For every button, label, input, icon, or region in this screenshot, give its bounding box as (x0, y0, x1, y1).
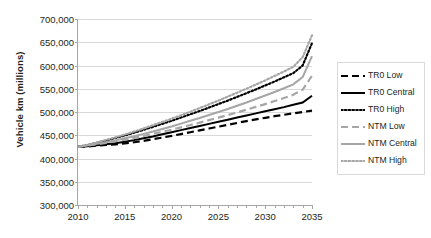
legend-item-label: TR0 Low (368, 71, 402, 80)
x-tick-mark-major (172, 205, 173, 209)
legend-item-ntm-low[interactable]: NTM Low (341, 118, 421, 135)
x-tick-mark-minor (303, 205, 304, 208)
x-tick-mark-minor (97, 205, 98, 208)
x-tick-mark-minor (200, 205, 201, 208)
x-tick-mark-minor (190, 205, 191, 208)
legend-item-label: NTM High (368, 156, 407, 165)
legend-line-swatch-icon (341, 88, 365, 98)
x-tick-mark-minor (246, 205, 247, 208)
y-tick-label: 700,000 (40, 14, 74, 25)
x-tick-mark-minor (134, 205, 135, 208)
y-axis-title: Vehicle km (millions) (14, 25, 25, 175)
series-line-ntm-central (78, 56, 312, 147)
legend-item-label: NTM Low (368, 122, 405, 131)
legend-item-ntm-high[interactable]: NTM High (341, 152, 421, 169)
legend-item-tr0-central[interactable]: TR0 Central (341, 84, 421, 101)
x-tick-mark-major (78, 205, 79, 209)
y-tick-label: 650,000 (40, 37, 74, 48)
x-tick-label: 2030 (255, 211, 276, 222)
legend-line-swatch-icon (341, 139, 365, 149)
legend-line-swatch-icon (341, 122, 365, 132)
x-tick-label: 2015 (114, 211, 135, 222)
x-tick-mark-minor (106, 205, 107, 208)
y-tick-label: 500,000 (40, 107, 74, 118)
legend-item-label: NTM Central (368, 139, 417, 148)
x-tick-mark-major (265, 205, 266, 209)
legend-item-label: TR0 Central (368, 88, 414, 97)
series-line-tr0-high (78, 43, 312, 147)
y-tick-label: 600,000 (40, 60, 74, 71)
chart-figure: Vehicle km (millions) 700,000650,000600,… (0, 0, 431, 238)
x-tick-mark-major (125, 205, 126, 209)
x-tick-mark-major (312, 205, 313, 209)
legend-item-ntm-central[interactable]: NTM Central (341, 135, 421, 152)
x-tick-mark-minor (162, 205, 163, 208)
y-tick-label: 300,000 (40, 200, 74, 211)
legend-line-swatch-icon (341, 105, 365, 115)
plot-area: 700,000650,000600,000550,000500,000450,0… (77, 19, 312, 206)
legend-item-tr0-low[interactable]: TR0 Low (341, 67, 421, 84)
x-tick-mark-minor (228, 205, 229, 208)
x-tick-mark-minor (284, 205, 285, 208)
chart-legend: TR0 LowTR0 CentralTR0 HighNTM LowNTM Cen… (337, 62, 425, 175)
x-tick-mark-minor (256, 205, 257, 208)
legend-item-label: TR0 High (368, 105, 404, 114)
y-tick-label: 350,000 (40, 176, 74, 187)
legend-item-tr0-high[interactable]: TR0 High (341, 101, 421, 118)
legend-line-swatch-icon (341, 156, 365, 166)
x-tick-label: 2010 (67, 211, 88, 222)
x-tick-mark-minor (237, 205, 238, 208)
series-lines (78, 19, 312, 205)
y-tick-label: 450,000 (40, 130, 74, 141)
x-tick-mark-major (218, 205, 219, 209)
x-tick-label: 2020 (161, 211, 182, 222)
x-tick-mark-minor (153, 205, 154, 208)
x-tick-mark-minor (275, 205, 276, 208)
x-tick-mark-minor (144, 205, 145, 208)
y-tick-label: 550,000 (40, 83, 74, 94)
x-tick-label: 2025 (208, 211, 229, 222)
legend-line-swatch-icon (341, 71, 365, 81)
x-tick-mark-minor (293, 205, 294, 208)
x-tick-mark-minor (209, 205, 210, 208)
x-tick-label: 2035 (301, 211, 322, 222)
y-tick-label: 400,000 (40, 153, 74, 164)
x-tick-mark-minor (87, 205, 88, 208)
x-tick-mark-minor (181, 205, 182, 208)
series-line-ntm-low (78, 76, 312, 147)
x-tick-mark-minor (115, 205, 116, 208)
